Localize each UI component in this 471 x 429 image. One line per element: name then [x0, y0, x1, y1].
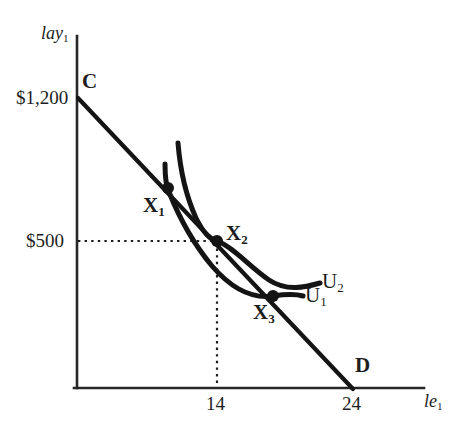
point-label-x1-text: X: [143, 193, 158, 217]
point-label-x3-subscript: 3: [268, 311, 275, 326]
point-label-x2-text: X: [226, 221, 241, 245]
budget-line-label-c: C: [82, 71, 97, 92]
x-tick-label-24: 24: [342, 394, 361, 413]
x-axis-label-subscript: 1: [437, 400, 443, 412]
point-label-x1-subscript: 1: [158, 204, 165, 219]
point-label-x3: X3: [253, 302, 275, 323]
point-x2-marker: [211, 235, 223, 247]
point-x1-marker: [162, 182, 174, 194]
point-label-x3-text: X: [253, 300, 268, 324]
x-tick-label-14: 14: [206, 394, 225, 413]
x-axis-label: le1: [424, 392, 443, 410]
point-label-x2-subscript: 2: [241, 232, 248, 247]
curve-label-u2-subscript: 2: [337, 280, 344, 295]
curve-label-u1: U1: [305, 285, 327, 306]
curve-label-u1-subscript: 1: [320, 294, 327, 309]
y-axis-label: lay1: [41, 24, 69, 42]
curve-label-u1-text: U: [305, 283, 320, 307]
point-x3-marker: [267, 290, 279, 302]
indifference-curve-figure: lay1 le1 $1,200 $500 14 24 C D X1 X2 X3 …: [0, 0, 471, 429]
point-label-x1: X1: [143, 195, 165, 216]
x-axis-label-text: le: [424, 391, 437, 411]
figure-canvas: [0, 0, 471, 429]
y-tick-label-1200: $1,200: [16, 88, 68, 107]
indifference-curve-u2: [178, 143, 320, 288]
y-tick-label-500: $500: [26, 231, 64, 250]
y-axis-label-text: lay: [41, 23, 63, 43]
point-label-x2: X2: [226, 223, 248, 244]
y-axis-label-subscript: 1: [63, 32, 69, 44]
budget-line-label-d: D: [355, 355, 370, 376]
